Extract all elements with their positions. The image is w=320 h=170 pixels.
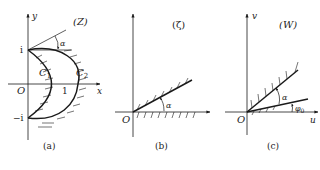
tick-label-1: 1 (62, 86, 68, 96)
angle-arc-alpha (55, 36, 58, 49)
caption-a: (a) (43, 141, 55, 151)
angle-arc-alpha (276, 88, 280, 104)
origin-label: O (237, 114, 245, 125)
panel-c: α φ0 v u O (W) (c) (225, 11, 318, 151)
tick-label-neg-i: −i (13, 113, 24, 123)
curve-label-c1: C1 (39, 67, 51, 80)
caption-c: (c) (267, 141, 279, 151)
tick-label-i: i (20, 45, 23, 55)
plane-label-w: (W) (279, 19, 297, 30)
caption-b: (b) (155, 141, 168, 151)
panel-b: α O (ζ) (b) (115, 14, 210, 151)
conformal-map-figure: y x O i −i 1 α C1 C2 (Z) (a) (0, 0, 320, 170)
ray-upper (247, 70, 298, 112)
u-axis-label: u (310, 115, 316, 125)
origin-label: O (122, 114, 130, 125)
plane-label-z: (Z) (73, 16, 88, 27)
hatch-axis (137, 112, 195, 118)
ray-boundary (133, 80, 192, 112)
v-axis-label: v (252, 11, 257, 21)
angle-label-alpha: α (166, 101, 172, 110)
angle-label-phi0: φ0 (295, 104, 305, 114)
plane-label-zeta: (ζ) (172, 19, 185, 30)
hatch-upper-ray (251, 62, 298, 108)
angle-arc-phi0 (292, 104, 293, 112)
origin-label: O (17, 85, 25, 96)
angle-arc-alpha (160, 98, 164, 111)
curve-label-c2: C2 (76, 67, 88, 80)
panel-a: y x O i −i 1 α C1 C2 (Z) (a) (8, 11, 102, 151)
x-axis-label: x (97, 86, 102, 96)
angle-label-alpha: α (60, 39, 66, 48)
y-axis-label: y (31, 11, 38, 21)
angle-label-alpha: α (282, 93, 288, 102)
